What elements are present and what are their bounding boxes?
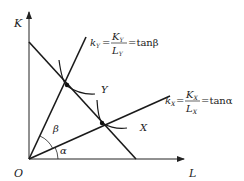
ray-k-x [29,96,170,159]
tangency-point-x [100,121,104,125]
l-axis-label: L [188,167,196,180]
k-axis-label: K [13,17,23,30]
formula-k-x: kX = KX LX =tanα [165,89,233,115]
ray-k-y [29,37,86,159]
svg-text:=tanβ: =tanβ [128,37,159,48]
formula-k-y: kY = KY LY =tanβ [90,31,159,57]
alpha-label: α [60,145,67,156]
svg-text:LX: LX [185,103,198,115]
beta-label: β [52,123,59,134]
svg-text:KY: KY [111,31,124,43]
tangency-point-y [65,83,69,87]
isocost-line [29,42,136,159]
isoquant-y [59,60,95,94]
angle-arc-beta [40,136,53,149]
svg-text:=: = [102,37,110,48]
svg-text:kY: kY [90,37,101,49]
isoquant-x-label: X [139,122,148,133]
svg-text:LY: LY [111,45,124,57]
svg-text:=tanα: =tanα [201,95,233,106]
angle-arc-alpha [55,147,58,159]
factor-intensity-diagram: K L O Y X β α kY = KY LY =tanβ kX = KX L… [0,0,244,181]
svg-text:KX: KX [185,89,198,101]
svg-text:=: = [176,95,184,106]
svg-text:kX: kX [165,95,176,107]
origin-label: O [14,167,23,180]
isoquant-y-label: Y [101,84,109,95]
